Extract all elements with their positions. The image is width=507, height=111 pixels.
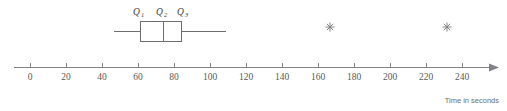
tick-label-0: 0 (28, 72, 33, 82)
quartile-labels-group: Q 1 Q 2 Q 3 (133, 7, 189, 18)
tick-label-40: 40 (97, 72, 107, 82)
q1-label: Q (133, 7, 140, 17)
box-plot-figure: Q 1 Q 2 Q 3 (0, 0, 507, 111)
boxplot-glyph-group (114, 22, 226, 42)
box-plot-canvas: Q 1 Q 2 Q 3 (0, 0, 507, 111)
tick-label-220: 220 (419, 72, 434, 82)
q2-label: Q (156, 7, 163, 17)
axis-tick-marks (31, 63, 463, 68)
q3-label: Q (177, 7, 184, 17)
tick-label-80: 80 (169, 72, 179, 82)
axis-arrowhead-icon (489, 64, 499, 72)
tick-label-60: 60 (133, 72, 143, 82)
q3-subscript: 3 (184, 11, 189, 18)
q1-subscript: 1 (141, 11, 144, 18)
interquartile-box (141, 22, 182, 42)
axis-title: Time in seconds (445, 96, 500, 105)
tick-label-180: 180 (347, 72, 362, 82)
tick-label-160: 160 (311, 72, 326, 82)
outliers-group (326, 23, 452, 32)
axis-group: 0 20 40 60 80 100 120 140 160 180 200 22… (14, 63, 499, 83)
tick-label-120: 120 (239, 72, 254, 82)
tick-label-140: 140 (275, 72, 290, 82)
q2-subscript: 2 (164, 11, 168, 18)
tick-label-200: 200 (383, 72, 398, 82)
tick-label-240: 240 (455, 72, 470, 82)
outlier-marker-2 (443, 23, 452, 32)
axis-tick-labels: 0 20 40 60 80 100 120 140 160 180 200 22… (28, 72, 470, 82)
tick-label-100: 100 (203, 72, 218, 82)
outlier-marker-1 (326, 23, 335, 32)
tick-label-20: 20 (61, 72, 71, 82)
